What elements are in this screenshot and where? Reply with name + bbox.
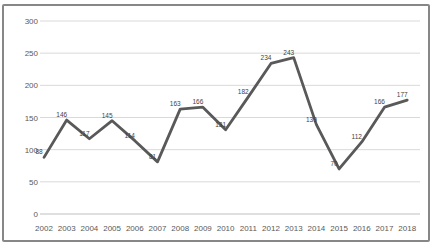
x-tick-label: 2012 — [262, 224, 280, 233]
data-label: 88 — [35, 148, 43, 155]
y-tick-label: 300 — [25, 17, 39, 26]
data-label: 234 — [261, 54, 272, 61]
data-label: 166 — [374, 98, 385, 105]
x-tick-label: 2011 — [240, 224, 258, 233]
x-tick-label: 2006 — [126, 224, 144, 233]
x-tick-label: 2018 — [398, 224, 416, 233]
data-label: 145 — [102, 112, 113, 119]
x-tick-label: 2003 — [58, 224, 76, 233]
x-tick-label: 2005 — [103, 224, 121, 233]
data-label: 114 — [125, 132, 136, 139]
x-tick-label: 2016 — [353, 224, 371, 233]
data-label: 131 — [215, 121, 226, 128]
x-tick-label: 2007 — [149, 224, 167, 233]
data-label: 117 — [79, 130, 90, 137]
y-tick-label: 150 — [25, 114, 39, 123]
y-tick-label: 0 — [34, 210, 39, 219]
x-tick-label: 2015 — [330, 224, 348, 233]
x-tick-label: 2004 — [81, 224, 99, 233]
x-tick-label: 2014 — [308, 224, 326, 233]
data-label: 112 — [352, 133, 363, 140]
data-label: 177 — [397, 91, 408, 98]
x-tick-label: 2008 — [171, 224, 189, 233]
y-tick-label: 200 — [25, 81, 39, 90]
line-chart: 0501001502002503002002200320042005200620… — [4, 6, 428, 240]
data-label: 70 — [330, 160, 338, 167]
data-label: 163 — [170, 100, 181, 107]
x-tick-label: 2017 — [376, 224, 394, 233]
x-tick-label: 2009 — [194, 224, 212, 233]
data-label: 139 — [306, 116, 317, 123]
x-tick-label: 2010 — [217, 224, 235, 233]
data-label: 166 — [192, 98, 203, 105]
data-label: 146 — [56, 111, 67, 118]
y-tick-label: 250 — [25, 49, 39, 58]
x-tick-label: 2013 — [285, 224, 303, 233]
data-label: 243 — [283, 49, 294, 56]
x-tick-label: 2002 — [35, 224, 53, 233]
y-tick-label: 50 — [29, 178, 38, 187]
chart-frame: 0501001502002503002002200320042005200620… — [2, 4, 430, 242]
data-label: 182 — [238, 88, 249, 95]
data-label: 81 — [149, 153, 157, 160]
data-series-line — [44, 58, 407, 169]
